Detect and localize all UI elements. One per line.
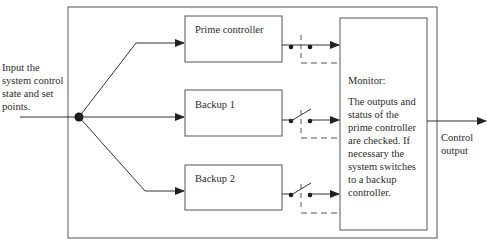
input-label-line: system control xyxy=(2,74,68,87)
input-label-line: Input the xyxy=(2,61,68,74)
control-output-label: Control output xyxy=(441,131,473,157)
branch-to-prime-arrow xyxy=(79,43,184,117)
backup1-box xyxy=(185,90,282,136)
prime-switch-closed xyxy=(282,35,339,63)
monitor-description: The outputs and status of the prime cont… xyxy=(348,95,428,199)
monitor-description-line: The outputs and xyxy=(348,95,428,108)
monitor-description-line: prime controller xyxy=(348,121,428,134)
control-output-label-line: Control xyxy=(441,131,473,144)
backup2-label: Backup 2 xyxy=(195,172,235,185)
input-label-line: points. xyxy=(2,100,68,113)
control-output-label-line: output xyxy=(441,144,473,157)
monitor-description-line: status of the xyxy=(348,108,428,121)
monitor-description-line: necessary the xyxy=(348,147,428,160)
input-label: Input the system control state and set p… xyxy=(2,61,68,113)
monitor-title: Monitor: xyxy=(348,74,385,87)
backup1-switch-open xyxy=(282,109,339,138)
branch-to-backup2-arrow xyxy=(79,117,184,191)
input-label-line: state and set xyxy=(2,87,68,100)
backup2-switch-open xyxy=(282,183,339,213)
backup1-label: Backup 1 xyxy=(195,98,235,111)
monitor-description-line: controller. xyxy=(348,186,428,199)
prime-controller-label: Prime controller xyxy=(195,23,264,36)
monitor-description-line: system switches xyxy=(348,160,428,173)
monitor-description-line: are checked. If xyxy=(348,134,428,147)
monitor-description-line: to a backup xyxy=(348,173,428,186)
